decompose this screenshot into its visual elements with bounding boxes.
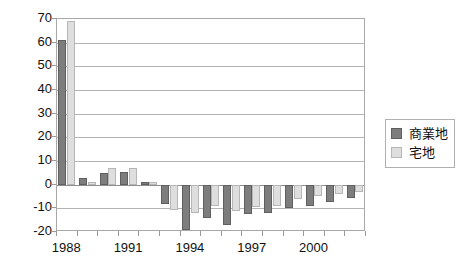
bar-商業地-2000 [306, 185, 314, 206]
x-axis-tick-label: 1994 [175, 240, 204, 255]
y-axis-tick-label: 10 [8, 153, 52, 166]
bar-宅地-1988 [67, 21, 75, 184]
x-axis-tick-mark [283, 231, 284, 236]
bar-商業地-1993 [161, 185, 169, 204]
x-axis-tick-label: 1991 [114, 240, 143, 255]
x-axis-tick-mark [221, 231, 222, 236]
x-axis-tick-label: 2000 [299, 240, 328, 255]
bar-宅地-2000 [314, 185, 322, 197]
x-axis-tick-mark [365, 231, 366, 236]
plot-area [56, 18, 365, 231]
legend-item-residential: 宅地 [391, 143, 448, 162]
legend-label-residential: 宅地 [409, 146, 435, 160]
x-axis-tick-mark [200, 231, 201, 236]
bar-商業地-1997 [244, 185, 252, 215]
x-axis-tick-mark [97, 231, 98, 236]
bar-宅地-1995 [211, 185, 219, 206]
x-axis-tick-mark [344, 231, 345, 236]
bar-宅地-1999 [294, 185, 302, 199]
x-axis-tick-mark [56, 231, 57, 236]
bar-商業地-1988 [58, 40, 66, 184]
y-axis-tick-label: 0 [8, 177, 52, 190]
bar-商業地-1998 [264, 185, 272, 213]
bar-宅地-1991 [129, 168, 137, 185]
chart-legend: 商業地 宅地 [385, 119, 455, 168]
x-axis-tick-label: 1997 [237, 240, 266, 255]
y-axis-tick-label: -10 [8, 200, 52, 213]
bar-商業地-1991 [120, 172, 128, 185]
bar-宅地-2001 [335, 185, 343, 194]
y-axis-tick-label: 50 [8, 58, 52, 71]
y-axis-tick-labels: 706050403020100-10-20 [8, 18, 52, 231]
x-axis-tick-mark [159, 231, 160, 236]
bar-商業地-1992 [141, 182, 149, 184]
bar-宅地-1990 [108, 168, 116, 185]
bar-宅地-1996 [232, 185, 240, 211]
bar-宅地-1998 [273, 185, 281, 206]
x-axis-tick-mark [138, 231, 139, 236]
bar-商業地-1995 [203, 185, 211, 218]
y-axis-tick-label: 20 [8, 129, 52, 142]
y-axis-tick-label: 30 [8, 106, 52, 119]
legend-label-commercial: 商業地 [409, 127, 448, 141]
bar-宅地-2002 [355, 185, 363, 192]
legend-swatch-commercial-icon [391, 128, 402, 139]
legend-swatch-residential-icon [391, 147, 402, 158]
x-axis-tick-mark [303, 231, 304, 236]
y-axis-tick-label: 40 [8, 82, 52, 95]
bar-宅地-1997 [252, 185, 260, 207]
x-axis-tick-mark [180, 231, 181, 236]
y-axis-tick-label: 70 [8, 11, 52, 24]
x-axis-tick-marks [56, 231, 365, 236]
bar-宅地-1994 [191, 185, 199, 213]
bar-商業地-1996 [223, 185, 231, 225]
bar-商業地-1990 [100, 173, 108, 185]
bar-商業地-1994 [182, 185, 190, 230]
x-axis-tick-mark [262, 231, 263, 236]
y-axis-tick-label: 60 [8, 35, 52, 48]
bars-layer [57, 19, 364, 230]
x-axis-tick-mark [241, 231, 242, 236]
x-axis-tick-labels: 19881991199419972000 [56, 240, 365, 260]
bar-chart: 706050403020100-10-20 198819911994199720… [0, 0, 474, 277]
bar-商業地-2001 [326, 185, 334, 203]
x-axis-tick-mark [77, 231, 78, 236]
bar-商業地-1989 [79, 178, 87, 185]
bar-商業地-1999 [285, 185, 293, 209]
bar-宅地-1992 [149, 182, 157, 184]
bar-宅地-1989 [88, 182, 96, 184]
legend-item-commercial: 商業地 [391, 124, 448, 143]
bar-宅地-1993 [170, 185, 178, 210]
x-axis-tick-mark [324, 231, 325, 236]
y-axis-tick-label: -20 [8, 224, 52, 237]
x-axis-tick-mark [118, 231, 119, 236]
x-axis-tick-label: 1988 [52, 240, 81, 255]
bar-商業地-2002 [347, 185, 355, 198]
